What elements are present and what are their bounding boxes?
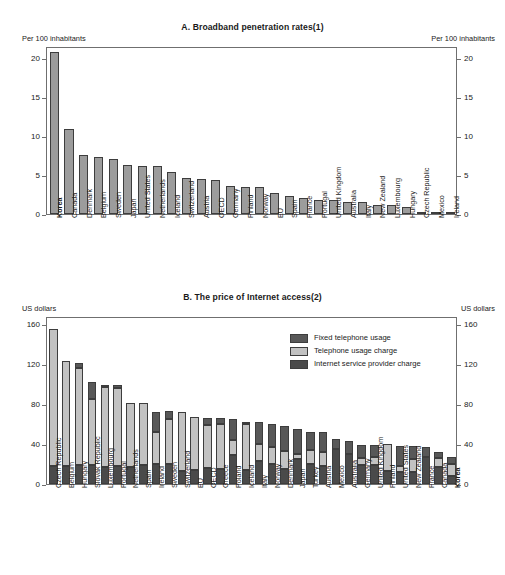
panel-a-unit-left: Per 100 inhabitants bbox=[22, 34, 86, 43]
category-label: France bbox=[306, 196, 313, 218]
category-label: Mexico bbox=[338, 465, 345, 488]
bar-segment-fixed bbox=[165, 411, 173, 419]
category-label: United Kingdom bbox=[335, 167, 342, 218]
y-tick-mark-left bbox=[42, 215, 46, 216]
category-label: Sweden bbox=[115, 192, 122, 218]
legend-swatch-isp-charge bbox=[290, 360, 308, 369]
y-tick-mark-left bbox=[42, 445, 46, 446]
y-tick-mark-left bbox=[42, 365, 46, 366]
y-tick-label-left: 40 bbox=[10, 440, 40, 449]
y-tick-label-left: 15 bbox=[10, 93, 40, 102]
category-label: Italy bbox=[365, 205, 372, 218]
legend-label-isp-charge: Internet service provider charge bbox=[314, 359, 421, 368]
panel-b-unit-right: US dollars bbox=[461, 304, 495, 313]
panel-a-unit-right: Per 100 inhabitants bbox=[431, 34, 495, 43]
bar-segment-telcharge bbox=[306, 450, 314, 464]
category-label: New Zealand bbox=[415, 446, 422, 488]
category-label: OECD bbox=[210, 467, 217, 488]
bar-segment-telcharge bbox=[319, 452, 327, 466]
bar-segment-fixed bbox=[306, 432, 314, 450]
bar-segment-telcharge bbox=[242, 424, 250, 470]
panel-broadband-penetration: A. Broadband penetration rates(1) Per 10… bbox=[0, 0, 505, 290]
y-tick-mark-right bbox=[457, 405, 461, 406]
bar-segment-fixed bbox=[216, 418, 224, 424]
category-label: Austria bbox=[203, 196, 210, 218]
category-label: Austria bbox=[325, 466, 332, 488]
category-label: Spain bbox=[145, 470, 152, 488]
category-label: France bbox=[428, 466, 435, 488]
category-label: Belgium bbox=[68, 462, 75, 488]
category-label: Turkey bbox=[312, 466, 319, 488]
category-label: Poland bbox=[235, 466, 242, 488]
y-tick-mark-left bbox=[42, 405, 46, 406]
y-tick-label-right: 10 bbox=[464, 132, 473, 141]
bar-segment-fixed bbox=[75, 363, 83, 368]
category-label: EU bbox=[197, 478, 204, 488]
bar-segment-fixed bbox=[268, 424, 276, 447]
bar-segment-fixed bbox=[113, 385, 121, 388]
category-label: Germany bbox=[364, 458, 371, 488]
category-label: Iceland bbox=[248, 465, 255, 488]
y-tick-label-right: 0 bbox=[464, 480, 468, 489]
category-label: Czech Republic bbox=[55, 438, 62, 488]
y-tick-label-left: 5 bbox=[10, 171, 40, 180]
category-label: United Kingdom bbox=[377, 437, 384, 488]
legend-label-telephone-usage-charge: Telephone usage charge bbox=[314, 346, 397, 355]
bar-segment-fixed bbox=[434, 452, 442, 458]
bar-segment-telcharge bbox=[62, 361, 70, 466]
y-tick-mark-left bbox=[42, 485, 46, 486]
y-tick-label-right: 0 bbox=[464, 210, 468, 219]
category-label: Finland bbox=[389, 464, 396, 488]
figure-root: A. Broadband penetration rates(1) Per 10… bbox=[0, 0, 505, 575]
category-label: Norway bbox=[262, 194, 269, 218]
category-label: United States bbox=[402, 445, 409, 488]
category-label: Ireland bbox=[453, 196, 460, 218]
legend-swatch-telephone-usage-charge bbox=[290, 347, 308, 356]
y-tick-mark-left bbox=[42, 59, 46, 60]
y-tick-mark-right bbox=[457, 176, 461, 177]
legend-swatch-fixed-telephone-usage bbox=[290, 334, 308, 343]
y-tick-label-right: 40 bbox=[464, 440, 473, 449]
bar-segment-telcharge bbox=[268, 447, 276, 464]
panel-a-title: A. Broadband penetration rates(1) bbox=[0, 22, 505, 32]
category-label: Japan bbox=[130, 198, 137, 218]
category-label: Germany bbox=[232, 188, 239, 218]
bar-segment-telcharge bbox=[255, 444, 263, 461]
y-tick-mark-right bbox=[457, 98, 461, 99]
category-label: Japan bbox=[299, 468, 306, 488]
y-tick-label-right: 20 bbox=[464, 54, 473, 63]
y-tick-mark-right bbox=[457, 365, 461, 366]
bar-segment-telcharge bbox=[229, 440, 237, 455]
category-label: Greece bbox=[222, 464, 229, 488]
category-label: Sweden bbox=[171, 462, 178, 488]
bar-segment-fixed bbox=[229, 419, 237, 440]
category-label: Switzerland bbox=[184, 451, 191, 488]
bar-segment-telcharge bbox=[139, 403, 147, 465]
y-tick-label-left: 0 bbox=[10, 210, 40, 219]
category-label: Portugal bbox=[120, 461, 127, 488]
y-tick-label-left: 120 bbox=[10, 360, 40, 369]
category-label: Australia bbox=[350, 190, 357, 218]
y-tick-label-right: 160 bbox=[464, 320, 477, 329]
bar-segment-fixed bbox=[332, 439, 340, 449]
category-label: Netherlands bbox=[159, 179, 166, 218]
category-label: Slovak Republic bbox=[94, 436, 101, 488]
y-tick-mark-right bbox=[457, 137, 461, 138]
panel-internet-price: B. The price of Internet access(2) US do… bbox=[0, 290, 505, 575]
category-label: Hungary bbox=[81, 461, 88, 488]
y-tick-mark-left bbox=[42, 176, 46, 177]
category-label: Australia bbox=[351, 460, 358, 488]
y-tick-mark-left bbox=[42, 98, 46, 99]
bar-segment-fixed bbox=[319, 432, 327, 452]
legend-label-fixed-telephone-usage: Fixed telephone usage bbox=[314, 333, 391, 342]
category-label: Canada bbox=[71, 193, 78, 218]
category-label: Korea bbox=[56, 198, 63, 218]
bar-segment-fixed bbox=[255, 422, 263, 444]
category-label: Switzerland bbox=[188, 181, 195, 218]
category-label: Canada bbox=[441, 463, 448, 488]
y-tick-label-left: 20 bbox=[10, 54, 40, 63]
panel-b-title: B. The price of Internet access(2) bbox=[0, 292, 505, 302]
y-tick-label-right: 80 bbox=[464, 400, 473, 409]
category-label: Hungary bbox=[409, 191, 416, 218]
category-label: Czech Republic bbox=[423, 168, 430, 218]
